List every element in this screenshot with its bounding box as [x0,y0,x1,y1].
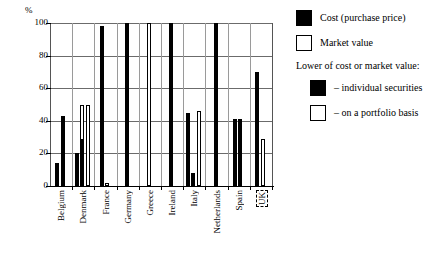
x-tick-mark [183,186,184,190]
bar-fill [81,139,83,185]
y-tick-mark [46,23,51,24]
bar-spain-lower_individual [238,119,242,186]
bar-france-market [105,183,109,186]
bar-greece-market [147,23,151,186]
bar-ireland-cost [169,23,173,186]
legend-item-lower-individual-securities: – individual securities [310,80,438,96]
legend-item-market-value: Market value [296,35,438,51]
group-separator [161,23,162,186]
y-tick-mark [46,153,51,154]
bar-italy-cost [186,113,190,186]
y-tick-mark [46,186,51,187]
bar-denmark-lower_individual [80,105,84,187]
plot-right-border [272,23,273,187]
legend-label-individual-securities: – individual securities [334,82,422,94]
legend-swatch-portfolio-basis-icon [310,105,326,121]
bars-panel [50,23,272,186]
x-tick-mark [94,186,95,190]
y-axis-tick-labels: 100806040200 [0,0,48,274]
bar-uk-lower_individual [255,72,259,186]
y-tick-mark [46,56,51,57]
group-separator [94,23,95,186]
legend-swatch-individual-securities-icon [310,80,326,96]
plot-area: % 100806040200 BelgiumDenmarkFranceGerma… [0,0,290,274]
group-separator [205,23,206,186]
chart-legend: Cost (purchase price) Market value Lower… [296,10,438,130]
x-label-italy: Italy [189,190,199,207]
x-tick-mark [139,186,140,190]
group-separator [117,23,118,186]
x-label-belgium: Belgium [56,190,66,221]
x-label-greece: Greece [145,190,155,215]
x-label-netherlands: Netherlands [212,190,222,233]
bar-denmark-lower_portfolio [86,105,90,187]
y-axis-tick-40: 40 [4,116,48,125]
x-tick-mark [228,186,229,190]
y-axis-tick-0: 0 [4,181,48,190]
legend-heading-lower-of-cost-or-market: Lower of cost or market value: [296,60,438,72]
legend-item-cost: Cost (purchase price) [296,10,438,26]
x-axis-labels: BelgiumDenmarkFranceGermanyGreeceIreland… [50,190,274,274]
group-separator [183,23,184,186]
x-tick-mark [272,186,273,190]
bar-italy-lower_individual [191,173,195,186]
group-separator [139,23,140,186]
bar-france-cost [100,26,104,186]
bar-germany-cost [125,23,129,186]
bar-uk-lower_portfolio [261,139,265,186]
x-label-uk: UK [256,190,268,207]
x-label-france: France [101,190,111,215]
bar-denmark-cost [75,153,79,186]
x-tick-mark [250,186,251,190]
bar-netherlands-cost [214,23,218,186]
group-separator [250,23,251,186]
x-tick-mark [205,186,206,190]
legend-label-portfolio-basis: – on a portfolio basis [334,107,418,119]
group-separator [228,23,229,186]
y-axis-tick-80: 80 [4,51,48,60]
x-label-ireland: Ireland [167,190,177,215]
x-tick-mark [72,186,73,190]
x-axis-line [50,186,274,187]
x-tick-mark [117,186,118,190]
x-label-denmark: Denmark [78,190,88,224]
x-tick-mark [161,186,162,190]
x-label-germany: Germany [123,190,133,224]
y-tick-mark [46,121,51,122]
legend-label-market-value: Market value [320,37,373,49]
bar-belgium-cost [55,163,59,186]
x-label-spain: Spain [234,190,244,211]
legend-label-cost: Cost (purchase price) [320,12,406,24]
legend-swatch-cost-icon [296,10,312,26]
y-axis-tick-20: 20 [4,148,48,157]
legend-swatch-market-value-icon [296,35,312,51]
y-axis-tick-60: 60 [4,83,48,92]
bar-italy-lower_portfolio [197,111,201,186]
group-separator [72,23,73,186]
legend-item-lower-portfolio-basis: – on a portfolio basis [310,105,438,121]
chart-page: % 100806040200 BelgiumDenmarkFranceGerma… [0,0,438,274]
bar-belgium-lower_individual [61,116,65,186]
bar-spain-cost [233,119,237,186]
y-axis-tick-100: 100 [4,18,48,27]
y-tick-mark [46,88,51,89]
